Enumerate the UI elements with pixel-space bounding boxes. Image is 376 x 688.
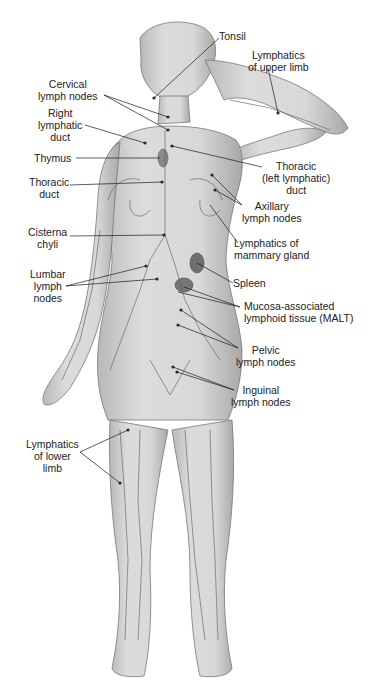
lymphatic-system-figure <box>0 0 376 688</box>
label-right-lymphatic-duct: Rightlymphaticduct <box>38 107 82 143</box>
label-cervical-lymph-nodes: Cervicallymph nodes <box>38 78 98 102</box>
label-inguinal-lymph-nodes: Inguinallymph nodes <box>231 384 291 408</box>
label-pelvic-lymph-nodes: Pelviclymph nodes <box>236 344 296 368</box>
label-tonsil: Tonsil <box>219 30 246 42</box>
label-thoracic-left-lymphatic-duct: Thoracic(left lymphatic)duct <box>262 160 330 196</box>
leader-cervical <box>104 95 168 130</box>
label-lymphatics-lower-limb: Lymphaticsof lowerlimb <box>26 438 79 474</box>
label-axillary-lymph-nodes: Axillarylymph nodes <box>242 200 302 224</box>
label-thymus: Thymus <box>34 152 71 164</box>
body-silhouette <box>43 22 348 677</box>
label-lymphatics-upper-limb: Lymphaticsof upper limb <box>248 49 309 73</box>
label-lumbar-lymph-nodes: Lumbarlymphnodes <box>30 268 66 304</box>
label-lymphatics-mammary-gland: Lymphatics ofmammary gland <box>234 237 309 261</box>
label-cisterna-chyli: Cisternachyli <box>28 226 67 250</box>
label-malt: Mucosa-associatedlymphoid tissue (MALT) <box>244 300 354 324</box>
label-thoracic-duct: Thoracicduct <box>29 176 69 200</box>
malt-organ <box>175 278 193 292</box>
label-spleen: Spleen <box>233 277 266 289</box>
